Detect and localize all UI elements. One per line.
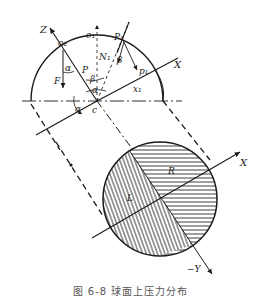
- label-x-bottom: X: [239, 157, 248, 168]
- label-x-top: X: [173, 59, 182, 70]
- label-P1: P₁: [113, 32, 124, 42]
- figure-caption: 图 6-8 球面上压力分布: [0, 283, 261, 298]
- proj-center: [97, 101, 133, 150]
- label-c: c: [92, 105, 97, 115]
- label-alpha-left: α: [65, 63, 71, 73]
- label-p1: p₁: [139, 66, 148, 76]
- x-axis-top: [97, 58, 178, 101]
- label-L: L: [126, 193, 133, 203]
- label-N1: N₁: [98, 52, 110, 62]
- label-F: F: [53, 76, 61, 86]
- sphere-pressure-diagram: Z o₂ o₁ P₁ N₁ β p₁ X α P F β α x₁ α c R …: [0, 0, 261, 303]
- label-neg-y: −Y: [187, 264, 202, 274]
- label-P: P: [81, 65, 89, 75]
- label-R: R: [167, 166, 175, 176]
- marker-dot: [69, 163, 72, 166]
- label-x1: x₁: [133, 84, 142, 94]
- label-alpha-mid: α: [92, 85, 98, 95]
- label-beta-top: β: [116, 55, 122, 65]
- label-z: Z: [39, 24, 48, 35]
- label-o2: o₂: [58, 38, 67, 48]
- x-axis-lower: [36, 101, 97, 135]
- label-alpha-bottom: α: [75, 104, 81, 114]
- label-beta-mid: β: [89, 74, 95, 84]
- proj-left-long: [56, 142, 103, 216]
- label-o1: o₁: [86, 30, 95, 40]
- proj-left-outer: [31, 104, 60, 150]
